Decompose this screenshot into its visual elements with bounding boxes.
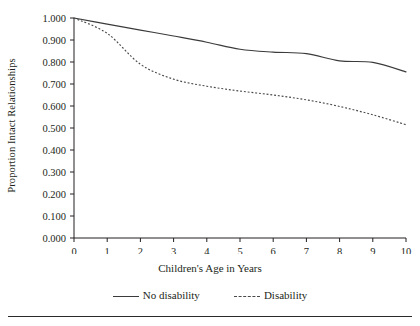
- y-tick-label: 0.800: [42, 57, 66, 68]
- legend-swatch-dotted-icon: [234, 296, 260, 297]
- x-tick-label: 3: [171, 246, 176, 254]
- x-tick-label: 6: [271, 246, 276, 254]
- x-tick-label: 10: [401, 246, 412, 254]
- y-axis-title: Proportion Intact Relationships: [2, 0, 20, 250]
- y-tick-label: 0.700: [42, 79, 66, 90]
- y-tick-label: 0.300: [42, 167, 66, 178]
- legend-item-disability: Disability: [234, 289, 307, 301]
- x-tick-label: 8: [337, 246, 342, 254]
- x-axis-title: Children's Age in Years: [0, 262, 420, 274]
- series-line-no-disability: [74, 18, 406, 72]
- x-tick-label: 2: [138, 246, 143, 254]
- x-tick-label: 9: [370, 246, 375, 254]
- plot-area: 0.0000.1000.2000.3000.4000.5000.6000.700…: [20, 6, 416, 254]
- x-tick-label: 5: [237, 246, 242, 254]
- legend-label-no-disability: No disability: [143, 289, 200, 301]
- y-tick-label: 0.200: [42, 189, 66, 200]
- y-tick-label: 0.100: [42, 211, 66, 222]
- series-line-disability: [74, 18, 406, 125]
- legend-item-no-disability: No disability: [113, 289, 200, 301]
- x-axis-title-text: Children's Age in Years: [158, 262, 261, 274]
- x-tick-label: 4: [204, 246, 210, 254]
- y-axis-title-text: Proportion Intact Relationships: [6, 58, 17, 192]
- line-chart: 0.0000.1000.2000.3000.4000.5000.6000.700…: [20, 6, 416, 254]
- y-tick-label: 0.000: [42, 233, 66, 244]
- x-tick-label: 0: [71, 246, 76, 254]
- y-tick-label: 0.600: [42, 101, 66, 112]
- x-tick-label: 7: [304, 246, 309, 254]
- chart-legend: No disability Disability: [0, 289, 420, 301]
- figure-container: Proportion Intact Relationships 0.0000.1…: [0, 0, 420, 326]
- y-tick-label: 0.500: [42, 123, 66, 134]
- x-tick-label: 1: [105, 246, 110, 254]
- y-tick-label: 1.000: [42, 13, 66, 24]
- bottom-divider: [8, 316, 412, 317]
- y-tick-label: 0.400: [42, 145, 66, 156]
- y-tick-label: 0.900: [42, 35, 66, 46]
- legend-swatch-solid-icon: [113, 296, 139, 297]
- legend-label-disability: Disability: [264, 289, 307, 301]
